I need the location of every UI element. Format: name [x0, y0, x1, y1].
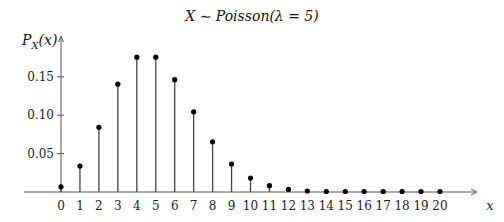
- stem-marker: [191, 109, 196, 114]
- x-tick-label: 12: [281, 199, 296, 213]
- x-tick-label: 16: [357, 199, 372, 213]
- stem-marker: [418, 189, 423, 194]
- stem-marker: [343, 189, 348, 194]
- x-axis-label: x: [486, 198, 494, 213]
- x-tick-label: 4: [133, 199, 141, 213]
- x-tick-label: 11: [262, 199, 277, 213]
- x-tick-label: 14: [319, 199, 335, 213]
- x-tick-label: 18: [394, 199, 409, 213]
- stem-marker: [58, 184, 63, 189]
- stem-marker: [77, 164, 82, 169]
- x-tick-label: 9: [228, 199, 236, 213]
- stem-marker: [248, 175, 253, 180]
- x-tick-label: 2: [95, 199, 103, 213]
- stem-marker: [381, 189, 386, 194]
- stem-marker: [286, 187, 291, 192]
- stem-marker: [229, 162, 234, 167]
- stem-marker: [96, 125, 101, 130]
- stem-marker: [134, 55, 139, 60]
- stem-marker: [267, 183, 272, 188]
- y-tick-label: 0.10: [27, 108, 54, 122]
- stem-marker: [437, 189, 442, 194]
- x-tick-label: 3: [114, 199, 122, 213]
- x-tick-label: 8: [209, 199, 217, 213]
- stem-marker: [115, 82, 120, 87]
- stem-marker: [305, 188, 310, 193]
- x-tick-label: 19: [413, 199, 428, 213]
- stem-marker: [172, 77, 177, 82]
- x-tick-label: 10: [243, 199, 258, 213]
- x-tick-label: 5: [152, 199, 160, 213]
- x-tick-label: 15: [338, 199, 353, 213]
- stem-marker: [324, 189, 329, 194]
- stem-marker: [210, 139, 215, 144]
- stem-marker: [362, 189, 367, 194]
- x-tick-label: 13: [300, 199, 315, 213]
- y-tick-label: 0.05: [27, 147, 54, 161]
- stem-marker: [153, 55, 158, 60]
- x-tick-label: 17: [376, 199, 391, 213]
- x-tick-label: 20: [432, 199, 447, 213]
- x-tick-label: 6: [171, 199, 179, 213]
- x-tick-label: 1: [76, 199, 84, 213]
- x-tick-label: 0: [57, 199, 65, 213]
- x-tick-label: 7: [190, 199, 198, 213]
- stem-plot: 0.050.100.150123456789101112131415161718…: [0, 0, 504, 222]
- y-tick-label: 0.15: [27, 70, 54, 84]
- stem-marker: [400, 189, 405, 194]
